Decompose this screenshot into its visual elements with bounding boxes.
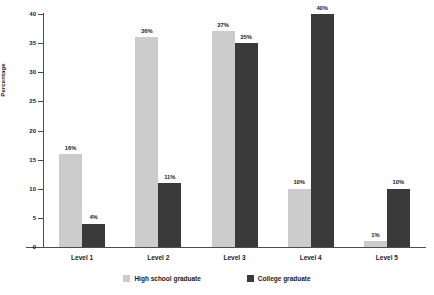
y-axis-tick-label: 35 [8, 40, 36, 46]
bar-value-label: 4% [76, 215, 111, 221]
bar-group: 1%10% [364, 14, 410, 247]
x-axis-label-level-1: Level 1 [44, 254, 120, 261]
bar-chart: Percentage 0510152025303540 16%4%36%11%3… [0, 0, 434, 295]
bar-high-school[interactable] [135, 37, 158, 247]
y-axis-tick-label: 15 [8, 157, 36, 163]
legend-label-high-school: High school graduate [134, 275, 200, 282]
legend-swatch-icon-high-school [123, 275, 130, 282]
y-axis-tick-label: 0 [8, 244, 36, 250]
bar-college[interactable] [387, 189, 410, 247]
bar-high-school[interactable] [212, 31, 235, 247]
legend-item-high-school-graduate: High school graduate [123, 275, 200, 282]
legend-swatch-icon-college [247, 275, 254, 282]
x-axis-line [26, 247, 426, 248]
y-axis-title: Percentage [0, 40, 6, 120]
y-axis-tick-label: 20 [8, 128, 36, 134]
bar-value-label: 37% [206, 23, 241, 29]
bar-college[interactable] [158, 183, 181, 247]
bar-group: 37%35% [212, 14, 258, 247]
bar-group: 10%40% [288, 14, 334, 247]
y-axis-tick-label: 5 [8, 215, 36, 221]
x-axis-label-level-2: Level 2 [120, 254, 196, 261]
legend-item-college-graduate: College graduate [247, 275, 311, 282]
x-axis-label-level-5: Level 5 [349, 254, 425, 261]
legend-label-college: College graduate [258, 275, 311, 282]
bar-college[interactable] [235, 43, 258, 247]
chart-legend: High school graduate College graduate [0, 275, 434, 282]
bar-high-school[interactable] [364, 241, 387, 247]
plot-area: 16%4%36%11%37%35%10%40%1%10% [44, 14, 425, 247]
bar-value-label: 36% [129, 29, 164, 35]
bar-high-school[interactable] [288, 189, 311, 247]
bar-value-label: 40% [305, 6, 340, 12]
bar-high-school[interactable] [59, 154, 82, 247]
y-axis-tick [38, 247, 44, 248]
bar-value-label: 11% [152, 175, 187, 181]
y-axis-tick-label: 10 [8, 186, 36, 192]
y-axis-tick-label: 25 [8, 98, 36, 104]
bar-college[interactable] [82, 224, 105, 247]
y-axis-tick-label: 30 [8, 69, 36, 75]
x-axis-label-level-4: Level 4 [273, 254, 349, 261]
bar-value-label: 35% [229, 35, 264, 41]
y-axis-tick-label: 40 [8, 11, 36, 17]
bar-value-label: 10% [381, 180, 416, 186]
bar-group: 36%11% [135, 14, 181, 247]
bar-group: 16%4% [59, 14, 105, 247]
bar-college[interactable] [311, 14, 334, 247]
x-axis-label-level-3: Level 3 [196, 254, 272, 261]
bar-value-label: 16% [53, 146, 88, 152]
